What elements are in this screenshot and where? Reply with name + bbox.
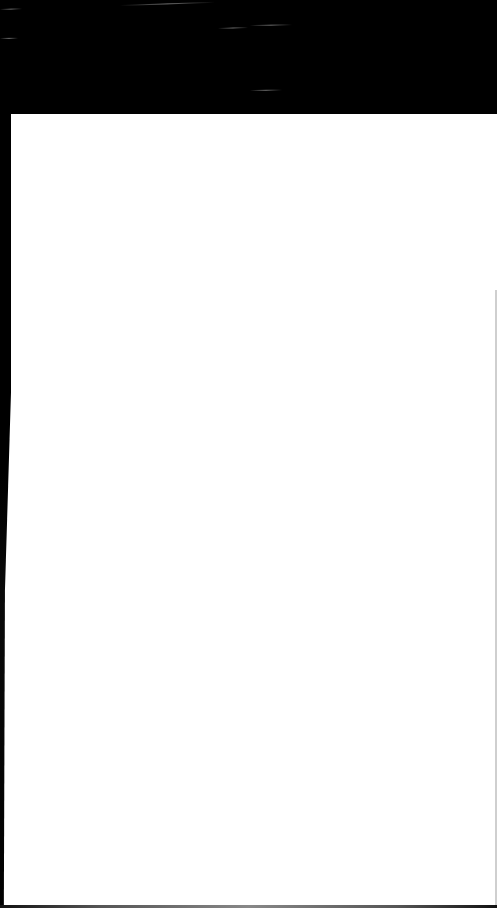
light-streak [0,8,22,10]
light-streak [120,2,215,6]
light-streak [250,89,282,91]
screen [0,0,497,908]
header-band [0,0,497,116]
light-streak [0,38,18,39]
blank-content-area [11,114,497,908]
light-streak [250,24,292,26]
light-streak [218,27,248,29]
